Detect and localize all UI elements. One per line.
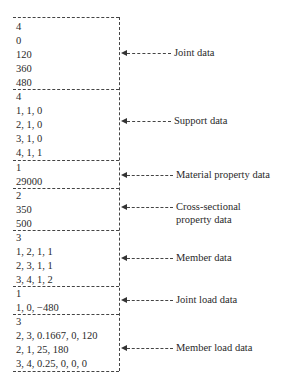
callout-label: Joint data (174, 47, 215, 59)
support-data-line: 3, 1, 0 (16, 133, 42, 145)
group-separator (13, 314, 119, 315)
top-border (13, 17, 119, 18)
material-data-line: 1 (16, 162, 21, 174)
leader-line (127, 53, 171, 54)
joint-load-data-line: 1 (16, 288, 21, 300)
leader-line (127, 258, 173, 259)
callout-label: Support data (174, 115, 227, 127)
support-data-line: 4 (16, 91, 21, 103)
joint-data-line: 360 (16, 63, 32, 75)
group-separator (13, 230, 119, 231)
member-data-line: 2, 3, 1, 1 (16, 260, 53, 272)
leader-line (127, 348, 173, 349)
joint-load-data-line: 1, 0, −480 (16, 302, 59, 314)
support-data-line: 1, 1, 0 (16, 105, 42, 117)
callout-label: Cross-sectional (176, 201, 241, 213)
joint-data-line: 120 (16, 49, 32, 61)
cross-section-data-line: 2 (16, 190, 21, 202)
callout-label: property data (176, 214, 232, 226)
callout-label: Member data (176, 252, 232, 264)
group-separator (13, 89, 119, 90)
leader-line (127, 175, 173, 176)
callout-label: Joint load data (176, 294, 237, 306)
right-border (119, 17, 120, 371)
support-data-line: 2, 1, 0 (16, 119, 42, 131)
member-data-line: 3 (16, 232, 21, 244)
leader-line (127, 300, 173, 301)
group-separator (13, 188, 119, 189)
member-load-data-line: 2, 1, 25, 180 (16, 344, 69, 356)
member-data-line: 3, 4, 1, 2 (16, 274, 53, 286)
cross-section-data-line: 500 (16, 218, 32, 230)
member-load-data-line: 2, 3, 0.1667, 0, 120 (16, 330, 97, 342)
callout-label: Material property data (176, 169, 270, 181)
cross-section-data-line: 350 (16, 204, 32, 216)
leader-line (127, 207, 173, 208)
support-data-line: 4, 1, 1 (16, 147, 42, 159)
member-data-line: 1, 2, 1, 1 (16, 246, 53, 258)
group-separator (13, 286, 119, 287)
group-separator (13, 160, 119, 161)
callout-label: Member load data (176, 342, 252, 354)
joint-data-line: 4 (16, 21, 21, 33)
bottom-border (13, 371, 119, 372)
member-load-data-line: 3 (16, 316, 21, 328)
material-data-line: 29000 (16, 176, 42, 188)
member-load-data-line: 3, 4, 0.25, 0, 0, 0 (16, 358, 87, 370)
joint-data-line: 0 (16, 35, 21, 47)
joint-data-line: 480 (16, 77, 32, 89)
leader-line (127, 121, 171, 122)
